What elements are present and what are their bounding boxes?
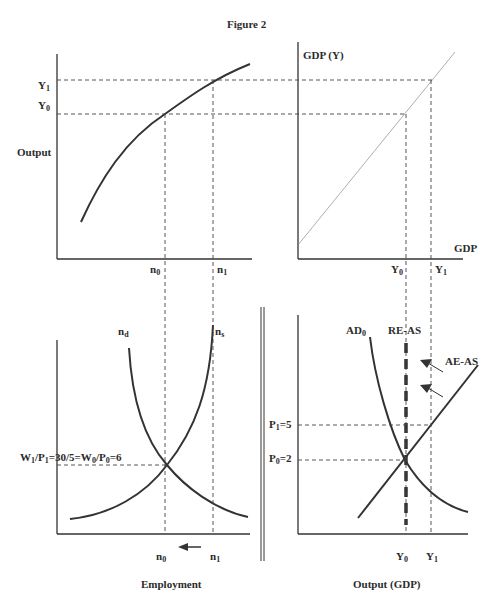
- p0-tick: P0=2: [269, 452, 292, 466]
- 45-degree-line: [298, 52, 455, 245]
- shift-arrowhead-2: [420, 384, 432, 393]
- employment-arrowhead: [178, 543, 188, 551]
- y0-tick-top: Y0: [391, 263, 403, 277]
- p1-tick: P1=5: [269, 418, 292, 432]
- y1-tick-top: Y1: [435, 263, 447, 277]
- nd-label: nd: [118, 325, 129, 339]
- n0-tick-top: n0: [150, 263, 160, 277]
- real-wage-label: W1/P1=30/5=W0/P0=6: [20, 451, 121, 465]
- gdp-y-axis-label: GDP (Y): [303, 49, 344, 61]
- ad0-label: AD0: [346, 324, 366, 338]
- y0-tick: Y0: [38, 99, 50, 113]
- production-function-curve: [81, 64, 250, 222]
- n1-tick-bottom: n1: [210, 550, 220, 564]
- ae-as-label: AE-AS: [445, 355, 478, 367]
- y0-tick-bottom: Y0: [396, 550, 408, 564]
- y1-tick-bottom: Y1: [426, 550, 438, 564]
- shift-arrowhead-1: [420, 359, 432, 368]
- output-label: Output: [17, 146, 51, 158]
- output-gdp-caption: Output (GDP): [353, 578, 421, 590]
- shift-arrow-1: [428, 363, 443, 372]
- gdp-x-axis-label: GDP: [454, 242, 477, 254]
- shift-arrow-2: [428, 388, 443, 397]
- re-as-label: RE-AS: [388, 324, 421, 336]
- n0-tick-bottom: n0: [156, 550, 166, 564]
- n1-tick-top: n1: [217, 263, 227, 277]
- ns-label: ns: [215, 325, 224, 339]
- y1-tick: Y1: [38, 79, 50, 93]
- ae-as-curve: [358, 365, 478, 518]
- figure-title: Figure 2: [227, 18, 266, 30]
- employment-caption: Employment: [141, 578, 202, 590]
- figure-canvas: [0, 0, 497, 608]
